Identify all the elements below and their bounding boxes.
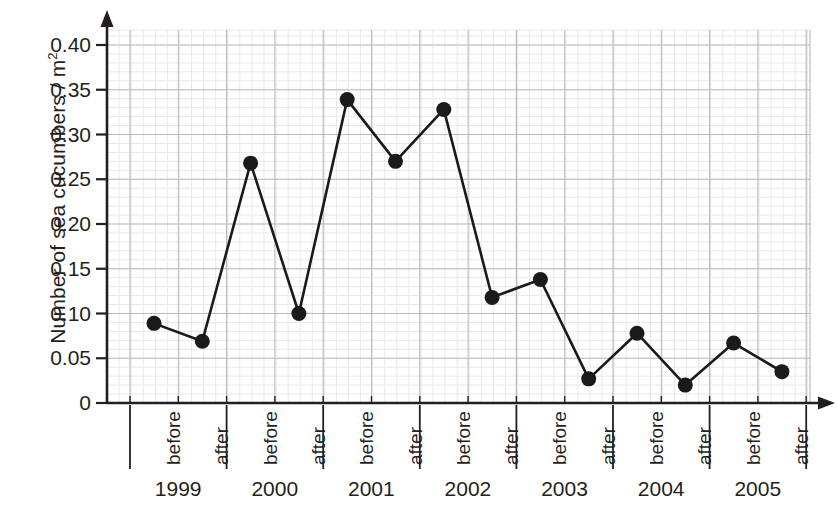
data-point xyxy=(243,156,258,171)
data-point xyxy=(533,272,548,287)
x-axis-group-separators xyxy=(130,405,806,469)
chart-container: Number of sea cucumbers / m2 00.050.100.… xyxy=(0,0,837,518)
data-point xyxy=(485,290,500,305)
data-point xyxy=(678,378,693,393)
data-point xyxy=(195,334,210,349)
y-axis-arrowhead xyxy=(101,10,114,27)
data-point xyxy=(436,102,451,117)
data-point xyxy=(291,306,306,321)
data-point xyxy=(388,154,403,169)
plot-area xyxy=(0,0,837,518)
x-axis-arrowhead xyxy=(818,397,835,410)
minor-gridlines xyxy=(107,30,810,403)
data-point xyxy=(726,336,741,351)
data-point xyxy=(147,316,162,331)
data-point xyxy=(630,326,645,341)
data-point xyxy=(581,371,596,386)
data-point xyxy=(340,92,355,107)
y-axis-tick-marks xyxy=(96,45,107,403)
major-gridlines xyxy=(107,30,810,403)
data-point xyxy=(774,364,789,379)
